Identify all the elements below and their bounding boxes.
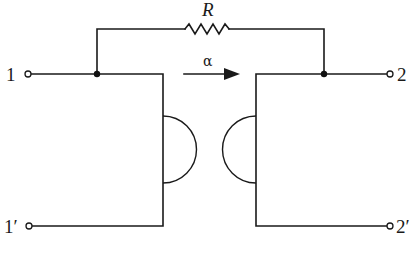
alpha-label: α (203, 53, 213, 69)
terminal-1-prime-label: 1′ (4, 216, 18, 237)
terminal-1 (25, 71, 31, 77)
terminal-1-label: 1 (6, 64, 16, 85)
terminal-2-prime (387, 223, 393, 229)
junction-dot-left (94, 71, 100, 77)
terminal-2 (387, 71, 393, 77)
terminal-2-label: 2 (397, 64, 407, 85)
bridge-wire-right (229, 29, 324, 74)
port2-top-wire (256, 74, 387, 226)
alpha-arrow-head (224, 68, 240, 80)
resistor-label: R (201, 0, 214, 20)
junction-dot-right (321, 71, 327, 77)
left-semicircle-element (163, 116, 197, 183)
terminal-2-prime-label: 2′ (396, 216, 410, 237)
terminal-1-prime (26, 223, 32, 229)
resistor (185, 24, 229, 34)
bridge-wire-left (97, 29, 185, 74)
right-semicircle-element (223, 116, 257, 183)
circuit-diagram: R 1 1′ 2 2′ α (0, 0, 413, 257)
port1-top-wire (31, 74, 163, 226)
